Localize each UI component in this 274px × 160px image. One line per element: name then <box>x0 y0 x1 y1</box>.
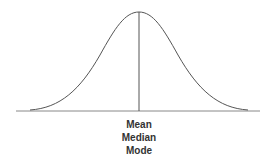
label-mode: Mode <box>109 144 169 157</box>
label-median: Median <box>109 131 169 144</box>
central-tendency-labels: Mean Median Mode <box>109 118 169 157</box>
label-mean: Mean <box>109 118 169 131</box>
